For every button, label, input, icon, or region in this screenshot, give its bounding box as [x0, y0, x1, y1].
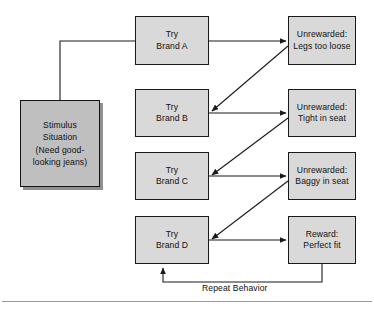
try-brand-b-line-2: Brand B	[156, 113, 188, 124]
edge-stimulus-to-brand-a	[60, 41, 135, 100]
footer-divider	[2, 301, 372, 302]
try-brand-b-line-1: Try	[166, 102, 178, 113]
stimulus-line-1: Stimulus	[43, 119, 77, 131]
outcome-a-line-1: Unrewarded:	[297, 29, 347, 40]
edge-outcome-c-to-brand-d	[212, 181, 288, 239]
repeat-behavior-label: Repeat Behavior	[202, 283, 268, 293]
outcome-d-line-1: Reward:	[306, 229, 339, 240]
outcome-c-line-2: Baggy in seat	[295, 176, 348, 187]
try-brand-a-line-1: Try	[166, 29, 178, 40]
edge-outcome-a-to-brand-b	[212, 46, 288, 111]
edge-outcome-b-to-brand-c	[212, 118, 288, 175]
outcome-b-line-2: Tight in seat	[298, 113, 346, 124]
unrewarded-tight-in-seat-box[interactable]: Unrewarded: Tight in seat	[288, 89, 356, 137]
stimulus-line-3: (Need good-	[36, 144, 85, 156]
try-brand-d-line-1: Try	[166, 229, 178, 240]
try-brand-a-line-2: Brand A	[156, 41, 187, 52]
unrewarded-legs-too-loose-box[interactable]: Unrewarded: Legs too loose	[288, 16, 356, 65]
flowchart-diagram: Stimulus Situation (Need good- looking j…	[0, 0, 374, 314]
try-brand-d-line-2: Brand D	[156, 240, 188, 251]
outcome-c-line-1: Unrewarded:	[297, 165, 347, 176]
try-brand-b-box[interactable]: Try Brand B	[135, 89, 209, 137]
reward-perfect-fit-box[interactable]: Reward: Perfect fit	[288, 216, 356, 264]
try-brand-c-box[interactable]: Try Brand C	[135, 152, 209, 200]
outcome-a-line-2: Legs too loose	[293, 41, 350, 52]
outcome-d-line-2: Perfect fit	[303, 240, 340, 251]
try-brand-d-box[interactable]: Try Brand D	[135, 216, 209, 264]
unrewarded-baggy-in-seat-box[interactable]: Unrewarded: Baggy in seat	[288, 152, 356, 200]
try-brand-a-box[interactable]: Try Brand A	[135, 16, 209, 65]
stimulus-line-4: looking jeans)	[33, 156, 87, 168]
outcome-b-line-1: Unrewarded:	[297, 102, 347, 113]
edge-repeat-behavior	[163, 264, 322, 282]
try-brand-c-line-1: Try	[166, 165, 178, 176]
stimulus-line-2: Situation	[43, 131, 77, 143]
stimulus-situation-box[interactable]: Stimulus Situation (Need good- looking j…	[20, 100, 100, 187]
try-brand-c-line-2: Brand C	[156, 176, 188, 187]
